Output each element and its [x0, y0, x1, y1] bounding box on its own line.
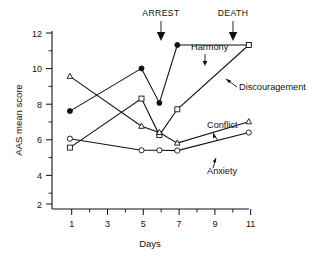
data-point: [139, 96, 144, 101]
data-point: [175, 148, 180, 153]
data-point: [67, 73, 73, 78]
chart-svg: 12 10 8 6 4 2 AAS mean score 1 3: [0, 0, 317, 263]
arrest-arrowhead-icon: [157, 32, 165, 41]
x-axis-tick-labels: 1 3 5 7 9 11: [69, 219, 255, 229]
y-tick-label: 10: [32, 64, 42, 74]
event-arrest: ARREST: [142, 8, 180, 41]
y-tick-label: 6: [37, 135, 42, 145]
data-point: [157, 100, 162, 105]
series-conflict: [67, 73, 252, 145]
data-point: [157, 148, 162, 153]
event-arrest-label: ARREST: [142, 8, 180, 18]
annotation-discouragement: Discouragement: [226, 79, 306, 92]
y-axis-tick-labels: 12 10 8 6 4 2: [32, 29, 42, 210]
data-point: [139, 148, 144, 153]
death-arrowhead-icon: [229, 32, 237, 41]
data-point: [139, 123, 145, 128]
data-point: [67, 109, 72, 114]
harmony-arrowhead-icon: [203, 61, 208, 66]
chart-figure: 12 10 8 6 4 2 AAS mean score 1 3: [0, 0, 317, 263]
x-tick-label: 9: [212, 219, 217, 229]
y-tick-label: 4: [37, 171, 42, 181]
series-label-anxiety: Anxiety: [207, 166, 238, 176]
series-label-conflict: Conflict: [207, 120, 238, 130]
x-axis-title: Days: [139, 238, 161, 249]
x-axis-ticks: [72, 209, 251, 215]
series-label-harmony: Harmony: [191, 42, 229, 52]
y-tick-label: 8: [37, 100, 42, 110]
y-tick-label: 2: [37, 200, 42, 210]
x-tick-label: 7: [177, 219, 182, 229]
annotation-harmony: Harmony: [191, 42, 229, 66]
x-tick-label: 1: [69, 219, 74, 229]
data-point: [175, 43, 180, 48]
data-point: [67, 145, 72, 150]
data-point: [246, 43, 251, 48]
y-axis-title: AAS mean score: [13, 84, 24, 155]
x-tick-label: 3: [105, 219, 110, 229]
event-death: DEATH: [218, 8, 249, 41]
data-point: [175, 107, 180, 112]
data-point: [139, 66, 144, 71]
y-axis-ticks: [46, 33, 52, 204]
data-point: [246, 119, 252, 124]
data-point: [67, 136, 72, 141]
series-label-discouragement: Discouragement: [239, 82, 306, 92]
data-point: [246, 130, 251, 135]
x-tick-label: 11: [246, 219, 255, 229]
annotation-conflict: Conflict: [207, 120, 238, 141]
annotation-anxiety: Anxiety: [207, 158, 238, 176]
series-harmony: [67, 43, 251, 114]
anxiety-arrowhead-icon: [213, 158, 216, 163]
event-death-label: DEATH: [218, 8, 249, 18]
y-tick-label: 12: [32, 29, 42, 39]
x-tick-label: 5: [141, 219, 146, 229]
